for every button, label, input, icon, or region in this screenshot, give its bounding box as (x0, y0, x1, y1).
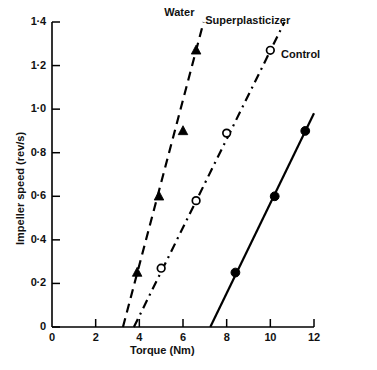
series-markers (132, 45, 309, 277)
marker-water-1 (154, 191, 164, 200)
axes-lines (52, 22, 314, 327)
y-axis-tick-label: 1·4 (6, 15, 46, 27)
marker-control-0 (231, 268, 240, 277)
series-line-water (123, 22, 204, 327)
series-label-control: Control (281, 48, 320, 60)
x-axis-tick-label: 2 (81, 331, 111, 343)
marker-control-1 (270, 192, 279, 201)
marker-water-3 (191, 45, 201, 54)
y-axis-tick-label: 1·0 (6, 102, 46, 114)
x-axis-tick-label: 12 (299, 331, 329, 343)
chart-figure: 00·20·40·60·81·01·21·4 024681012 Impelle… (0, 0, 377, 370)
y-axis-tick-label: 0·4 (6, 233, 46, 245)
marker-superplasticizer-0 (157, 264, 165, 272)
y-axis-tick-label: 0·6 (6, 189, 46, 201)
marker-water-0 (132, 267, 142, 276)
x-axis-ticks (96, 319, 314, 327)
series-line-superplasticizer (134, 22, 285, 327)
marker-water-2 (178, 126, 188, 135)
series-lines (123, 22, 314, 327)
series-line-control (210, 113, 314, 327)
x-axis-tick-label: 8 (212, 331, 242, 343)
marker-control-2 (301, 127, 310, 136)
y-axis-title: Impeller speed (rev/s) (14, 132, 26, 245)
x-axis-tick-label: 6 (168, 331, 198, 343)
x-axis-tick-label: 4 (124, 331, 154, 343)
x-axis-title: Torque (Nm) (130, 344, 195, 356)
y-axis-tick-label: 1·2 (6, 59, 46, 71)
series-label-superplasticizer: Superplasticizer (205, 14, 290, 26)
x-axis-tick-label: 10 (255, 331, 285, 343)
y-axis-tick-label: 0·2 (6, 276, 46, 288)
series-label-water: Water (164, 6, 194, 18)
plot-area (0, 0, 377, 370)
y-axis-tick-label: 0·8 (6, 146, 46, 158)
marker-superplasticizer-1 (192, 197, 200, 205)
x-axis-tick-label: 0 (37, 331, 67, 343)
y-axis-ticks (52, 22, 60, 327)
marker-superplasticizer-3 (267, 47, 275, 55)
marker-superplasticizer-2 (223, 129, 231, 137)
